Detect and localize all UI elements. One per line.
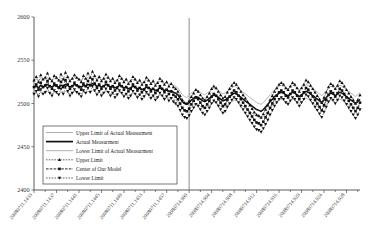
data-marker-square — [280, 89, 283, 92]
data-marker-triangle-down — [109, 94, 112, 97]
data-marker-triangle-down — [259, 131, 262, 134]
data-marker-triangle-down — [113, 96, 116, 99]
data-marker-triangle-up — [59, 72, 62, 75]
data-marker-triangle-up — [316, 94, 319, 97]
data-marker-triangle-down — [203, 113, 206, 116]
data-marker-square — [201, 105, 204, 108]
data-marker-square — [91, 78, 94, 81]
data-marker-triangle-up — [91, 70, 94, 73]
data-marker-square — [258, 122, 261, 125]
data-marker-square — [159, 85, 162, 88]
y-axis-tick-label: 2550 — [17, 56, 29, 63]
x-axis-tick-label-group: 20080714.912 — [232, 191, 256, 218]
data-marker-triangle-down — [154, 99, 157, 102]
data-marker-square — [192, 100, 195, 103]
data-marker-triangle-up — [158, 77, 161, 80]
legend-item-label: Lower Limit of Actual Measurment — [76, 148, 153, 154]
data-marker-triangle-down — [149, 97, 152, 100]
data-marker-square — [46, 80, 49, 83]
data-marker-triangle-up — [262, 112, 265, 115]
data-marker-square — [136, 89, 139, 92]
data-marker-triangle-up — [53, 74, 56, 77]
x-axis-tick-label-group: 20080714.900 — [165, 191, 189, 218]
data-marker-triangle-up — [212, 85, 215, 88]
data-marker-square — [359, 101, 362, 104]
data-marker-square — [58, 168, 61, 171]
data-marker-triangle-up — [39, 73, 42, 76]
x-axis-tick-label: 20080714.920 — [277, 191, 301, 218]
data-marker-square — [181, 107, 184, 110]
data-marker-square — [109, 87, 112, 90]
data-marker-square — [183, 109, 186, 112]
data-marker-square — [271, 102, 274, 105]
x-axis-tick-label-group: 20080711.1457 — [141, 191, 167, 220]
x-axis-tick-label: 20080714.904 — [187, 191, 211, 218]
data-marker-square — [338, 87, 341, 90]
data-marker-square — [39, 81, 42, 84]
data-marker-triangle-down — [32, 93, 35, 96]
data-marker-triangle-down — [334, 102, 337, 105]
data-marker-square — [307, 88, 310, 91]
data-marker-square — [255, 121, 258, 124]
data-marker-square — [251, 115, 254, 118]
data-marker-square — [179, 102, 182, 105]
x-axis-tick-label-group: 20080714.924 — [300, 191, 324, 218]
data-marker-triangle-down — [271, 109, 274, 112]
data-marker-square — [73, 81, 76, 84]
data-marker-square — [298, 98, 301, 101]
data-marker-square — [204, 107, 207, 110]
x-axis-tick-label-group: 20080714.916 — [255, 191, 279, 218]
data-marker-triangle-down — [264, 123, 267, 126]
chart-legend: Upper Limit of Actual MeasurmentActual M… — [43, 126, 177, 184]
data-marker-triangle-down — [77, 93, 80, 96]
data-marker-triangle-down — [80, 95, 83, 98]
data-marker-square — [172, 94, 175, 97]
data-marker-square — [316, 102, 319, 105]
data-marker-square — [199, 101, 202, 104]
data-marker-square — [80, 88, 83, 91]
data-marker-triangle-up — [111, 77, 114, 80]
legend-item-label: Upper Limit of Actual Measurment — [76, 130, 153, 136]
data-marker-triangle-up — [194, 88, 197, 91]
data-marker-triangle-up — [165, 80, 168, 83]
data-marker-square — [186, 110, 189, 113]
data-marker-square — [87, 80, 90, 83]
data-marker-triangle-up — [336, 84, 339, 87]
data-marker-triangle-up — [170, 82, 173, 85]
x-axis-tick-label: 20080714.912 — [232, 191, 256, 218]
data-marker-square — [163, 91, 166, 94]
x-axis-tick-label-group: 20080714.904 — [187, 191, 211, 218]
data-marker-triangle-down — [241, 108, 244, 111]
x-axis-tick-label: 20080714.900 — [165, 191, 189, 218]
x-axis-tick-label: 20080711.1457 — [141, 191, 167, 220]
data-marker-triangle-down — [37, 95, 40, 98]
y-axis-tick-label: 2600 — [17, 13, 29, 20]
data-marker-square — [347, 100, 350, 103]
data-marker-square — [267, 112, 270, 115]
data-marker-square — [352, 107, 355, 110]
data-marker-square — [318, 106, 321, 109]
series-upper-limit — [32, 70, 361, 119]
data-marker-triangle-up — [66, 75, 69, 78]
data-marker-triangle-up — [291, 81, 294, 84]
data-marker-triangle-down — [100, 94, 103, 97]
data-marker-triangle-down — [250, 122, 253, 125]
data-marker-square — [177, 98, 180, 101]
data-marker-triangle-up — [46, 72, 49, 75]
data-marker-triangle-down — [190, 110, 193, 113]
data-marker-square — [190, 103, 193, 106]
data-marker-square — [249, 112, 252, 115]
data-marker-triangle-up — [138, 78, 141, 81]
data-marker-triangle-down — [84, 92, 87, 95]
legend-item-label: Actual Measurment — [76, 139, 119, 145]
data-marker-triangle-down — [199, 108, 202, 111]
data-marker-square — [253, 119, 256, 122]
x-axis-tick-label: 20080714.916 — [255, 191, 279, 218]
data-marker-triangle-up — [44, 76, 47, 79]
data-marker-triangle-up — [304, 78, 307, 81]
data-marker-triangle-down — [266, 119, 269, 122]
data-marker-square — [350, 103, 353, 106]
data-marker-square — [174, 95, 177, 98]
data-marker-triangle-up — [125, 78, 128, 81]
data-marker-square — [123, 88, 126, 91]
